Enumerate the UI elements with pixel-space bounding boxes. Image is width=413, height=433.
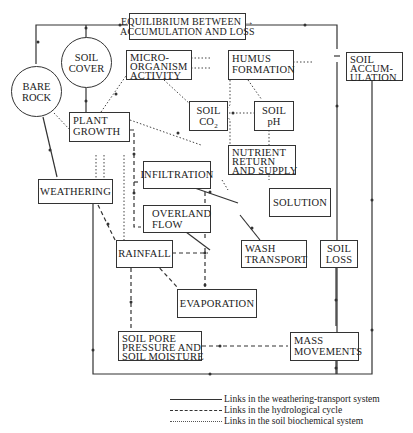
node-overland-flow: OVERLAND FLOW: [143, 205, 211, 233]
node-infiltration: INFILTRATION: [143, 161, 211, 189]
legend: Links in the weathering-transport system…: [170, 394, 380, 427]
legend-label-solid: Links in the weathering-transport system: [224, 394, 380, 405]
node-soil-pore: SOIL PORE PRESSURE AND SOIL MOISTURE: [118, 331, 202, 361]
link-plant-overland: [130, 130, 141, 227]
link-humus-ph: [248, 80, 262, 100]
node-rainfall: RAINFALL: [116, 240, 173, 268]
node-bare-rock: BARE ROCK: [11, 66, 62, 117]
legend-solid-line-icon: [170, 399, 222, 400]
link-solution-soil-loss: [240, 215, 260, 240]
legend-row-solid: Links in the weathering-transport system: [170, 394, 380, 405]
legend-label-dotted: Links in the soil biochemical system: [224, 416, 363, 427]
node-nutrient-return: NUTRIENT RETURN AND SUPPLY: [228, 145, 296, 175]
node-weathering: WEATHERING: [38, 179, 113, 204]
link-nutrient-solution: [222, 180, 228, 190]
link-bare-rock-plant: [54, 113, 70, 130]
legend-row-dotted: Links in the soil biochemical system: [170, 416, 380, 427]
soil-co2-label: SOIL CO2: [196, 105, 220, 127]
node-mass-movements: MASS MOVEMENTS: [290, 332, 359, 361]
node-micro-organism: MICRO- ORGANISM ACTIVITY: [126, 50, 192, 80]
node-wash-transport: WASH TRANSPORT: [241, 240, 307, 268]
legend-dotted-line-icon: [170, 421, 222, 422]
node-soil-loss: SOIL LOSS: [320, 240, 358, 268]
link-overland-wash: [186, 232, 210, 250]
legend-dashed-line-icon: [170, 410, 222, 411]
node-evaporation: EVAPORATION: [177, 289, 257, 318]
link-equilibrium-right: [245, 25, 337, 49]
link-micro-co2: [164, 80, 190, 104]
node-soil-co2: SOIL CO2: [189, 101, 228, 131]
co2-subscript: 2: [214, 122, 218, 130]
legend-label-dashed: Links in the hydrological cycle: [224, 405, 342, 416]
node-soil-cover: SOIL COVER: [61, 37, 112, 88]
link-bare-rock-weathering: [43, 117, 57, 177]
link-weathering-frame: [93, 78, 372, 374]
node-humus-formation: HUMUS FORMATION: [228, 50, 294, 80]
node-soil-accumulation: SOIL ACCUM- ULATION: [346, 52, 403, 81]
legend-row-dashed: Links in the hydrological cycle: [170, 405, 380, 416]
node-equilibrium: EQUILIBRIUM BETWEEN → ACCUMULATION AND L…: [129, 13, 246, 40]
node-plant-growth: PLANT GROWTH: [69, 112, 130, 142]
node-soil-ph: SOIL pH: [254, 101, 294, 131]
node-solution: SOLUTION: [269, 188, 331, 217]
